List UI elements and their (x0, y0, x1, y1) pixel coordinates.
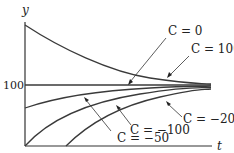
t-axis-label: t (217, 139, 222, 153)
y-axis-label: y (21, 3, 29, 17)
label-c-minus-200: C = −200 (183, 112, 234, 126)
curve-c-minus-50 (25, 86, 211, 108)
label-c-0: C = 0 (168, 24, 203, 38)
annotation-c-100: C = 100 (167, 42, 234, 78)
label-c-100: C = 100 (191, 42, 234, 56)
tick-label-100: 100 (3, 79, 24, 92)
label-c-minus-50: C = −50 (117, 131, 169, 145)
solution-curves-chart: y t 100 C = 0 C = 100 C = −200 C = −100 … (0, 0, 234, 153)
